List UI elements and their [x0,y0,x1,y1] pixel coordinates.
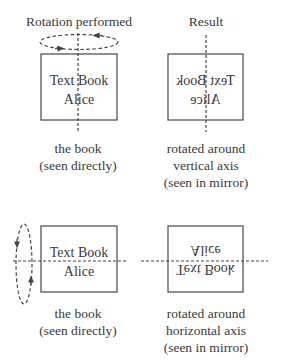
caption-line: (seen in mirror) [146,174,266,191]
caption-mirror-top: rotated around vertical axis (seen in mi… [146,140,266,191]
book-author: Alice [168,90,243,109]
book-text-direct-bottom: Text Book Alice [41,243,117,281]
book-author: Alice [168,241,243,260]
caption-line: the book [18,140,138,157]
header-rotation-performed: Rotation performed [0,13,158,30]
book-title: Text Book [168,260,243,279]
book-title: Text Book [41,243,117,262]
book-title: Text Book [168,71,243,90]
header-result: Result [146,13,266,30]
book-author: Alice [41,262,117,281]
caption-line: (seen directly) [18,157,138,174]
caption-line: rotated around [146,305,266,322]
book-author: Alice [41,90,117,109]
caption-line: (seen directly) [18,322,138,339]
rotation-ellipse-horizontal [40,35,118,50]
book-title: Text Book [41,71,117,90]
caption-line: horizontal axis [146,322,266,339]
caption-line: (seen in mirror) [146,339,266,356]
caption-line: vertical axis [146,157,266,174]
book-text-direct-top: Text Book Alice [41,71,117,109]
caption-line: rotated around [146,140,266,157]
caption-direct-bottom: the book (seen directly) [18,305,138,339]
caption-direct-top: the book (seen directly) [18,140,138,174]
caption-mirror-bottom: rotated around horizontal axis (seen in … [146,305,266,356]
rotation-ellipse-vertical [16,224,32,304]
caption-line: the book [18,305,138,322]
book-text-mirror-top: Text Book Alice [168,71,243,109]
book-text-mirror-bottom: Text Book Alice [168,241,243,279]
